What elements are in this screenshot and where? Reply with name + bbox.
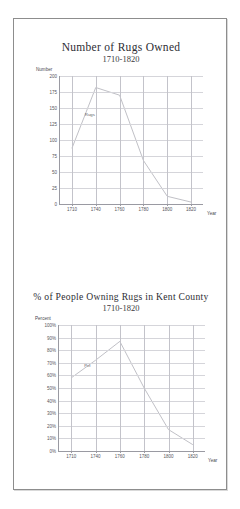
- gridline-vertical: [71, 325, 72, 451]
- gridline-horizontal: [60, 76, 203, 77]
- series-polyline: [71, 341, 193, 444]
- gridline-horizontal: [59, 350, 205, 351]
- y-tick-label: 50: [52, 170, 57, 175]
- y-tick-label: 75: [52, 154, 57, 159]
- y-axis-title: Number: [36, 67, 52, 72]
- gridline-horizontal: [59, 426, 205, 427]
- x-tick-label: 1740: [91, 207, 101, 212]
- x-tick-mark: [120, 204, 121, 206]
- series-inline-label: Pct: [84, 363, 90, 368]
- x-tick-label: 1760: [115, 454, 125, 459]
- x-tick-mark: [120, 451, 121, 453]
- gridline-horizontal: [60, 172, 203, 173]
- gridline-horizontal: [60, 108, 203, 109]
- gridline-horizontal: [59, 338, 205, 339]
- x-tick-mark: [72, 204, 73, 206]
- x-tick-label: 1800: [162, 207, 172, 212]
- gridline-vertical: [167, 76, 168, 204]
- x-tick-mark: [193, 451, 194, 453]
- chart-number-of-rugs-owned: Number of Rugs Owned 1710-1820 Number Ye…: [14, 41, 228, 236]
- y-tick-label: 90%: [47, 335, 56, 340]
- gridline-vertical: [96, 76, 97, 204]
- y-tick-label: 150: [49, 106, 57, 111]
- x-tick-label: 1800: [163, 454, 173, 459]
- gridline-vertical: [144, 325, 145, 451]
- series-inline-label: Rugs: [85, 112, 95, 117]
- x-tick-label: 1710: [66, 454, 76, 459]
- gridline-vertical: [169, 325, 170, 451]
- gridline-vertical: [72, 76, 73, 204]
- x-tick-label: 1760: [115, 207, 125, 212]
- page-canvas: Number of Rugs Owned 1710-1820 Number Ye…: [0, 0, 240, 509]
- x-tick-label: 1780: [139, 454, 149, 459]
- y-tick-label: 175: [49, 90, 57, 95]
- y-tick-label: 0%: [49, 449, 56, 454]
- y-tick-label: 100%: [44, 323, 56, 328]
- y-tick-label: 10%: [47, 436, 56, 441]
- gridline-horizontal: [60, 92, 203, 93]
- y-tick-label: 200: [49, 74, 57, 79]
- y-tick-label: 40%: [47, 398, 56, 403]
- gridline-horizontal: [59, 401, 205, 402]
- gridline-horizontal: [60, 124, 203, 125]
- x-tick-label: 1820: [186, 207, 196, 212]
- x-tick-mark: [169, 451, 170, 453]
- gridline-horizontal: [59, 413, 205, 414]
- chart-subtitle: 1710-1820: [14, 54, 228, 64]
- x-tick-label: 1820: [188, 454, 198, 459]
- series-polyline: [72, 88, 191, 203]
- y-tick-label: 25: [52, 186, 57, 191]
- y-axis-title: Percent: [35, 316, 51, 321]
- gridline-horizontal: [59, 388, 205, 389]
- plot-area: 0%10%20%30%40%50%60%70%80%90%100%1710174…: [58, 325, 205, 452]
- gridline-horizontal: [60, 140, 203, 141]
- gridline-horizontal: [59, 325, 205, 326]
- gridline-vertical: [120, 325, 121, 451]
- y-tick-label: 50%: [47, 386, 56, 391]
- chart-pct-people-owning-rugs: % of People Owning Rugs in Kent County 1…: [14, 291, 228, 476]
- y-tick-label: 125: [49, 122, 57, 127]
- gridline-horizontal: [59, 438, 205, 439]
- gridline-vertical: [96, 325, 97, 451]
- x-tick-mark: [71, 451, 72, 453]
- x-tick-mark: [167, 204, 168, 206]
- document-sheet: Number of Rugs Owned 1710-1820 Number Ye…: [13, 18, 227, 490]
- y-tick-label: 0: [54, 202, 57, 207]
- x-tick-label: 1780: [138, 207, 148, 212]
- plot-area: 0255075100125150175200171017401760178018…: [59, 76, 203, 205]
- gridline-horizontal: [60, 156, 203, 157]
- x-tick-mark: [96, 204, 97, 206]
- y-tick-label: 80%: [47, 348, 56, 353]
- x-tick-mark: [143, 204, 144, 206]
- y-tick-label: 30%: [47, 411, 56, 416]
- x-axis-title: Year: [207, 211, 216, 216]
- plot-wrapper: Percent Year 0%10%20%30%40%50%60%70%80%9…: [14, 315, 228, 465]
- plot-wrapper: Number Year 0255075100125150175200171017…: [14, 66, 228, 218]
- x-tick-mark: [144, 451, 145, 453]
- gridline-horizontal: [59, 375, 205, 376]
- y-tick-label: 60%: [47, 373, 56, 378]
- x-axis-title: Year: [208, 458, 217, 463]
- x-tick-mark: [191, 204, 192, 206]
- x-tick-label: 1740: [90, 454, 100, 459]
- x-tick-mark: [96, 451, 97, 453]
- gridline-vertical: [143, 76, 144, 204]
- y-tick-label: 100: [49, 138, 57, 143]
- gridline-vertical: [193, 325, 194, 451]
- y-tick-label: 20%: [47, 423, 56, 428]
- chart-subtitle: 1710-1820: [14, 303, 228, 313]
- gridline-horizontal: [59, 363, 205, 364]
- gridline-horizontal: [60, 188, 203, 189]
- gridline-vertical: [120, 76, 121, 204]
- x-tick-label: 1710: [67, 207, 77, 212]
- chart-title: % of People Owning Rugs in Kent County: [14, 291, 228, 302]
- gridline-vertical: [191, 76, 192, 204]
- chart-title: Number of Rugs Owned: [14, 41, 228, 53]
- y-tick-label: 70%: [47, 360, 56, 365]
